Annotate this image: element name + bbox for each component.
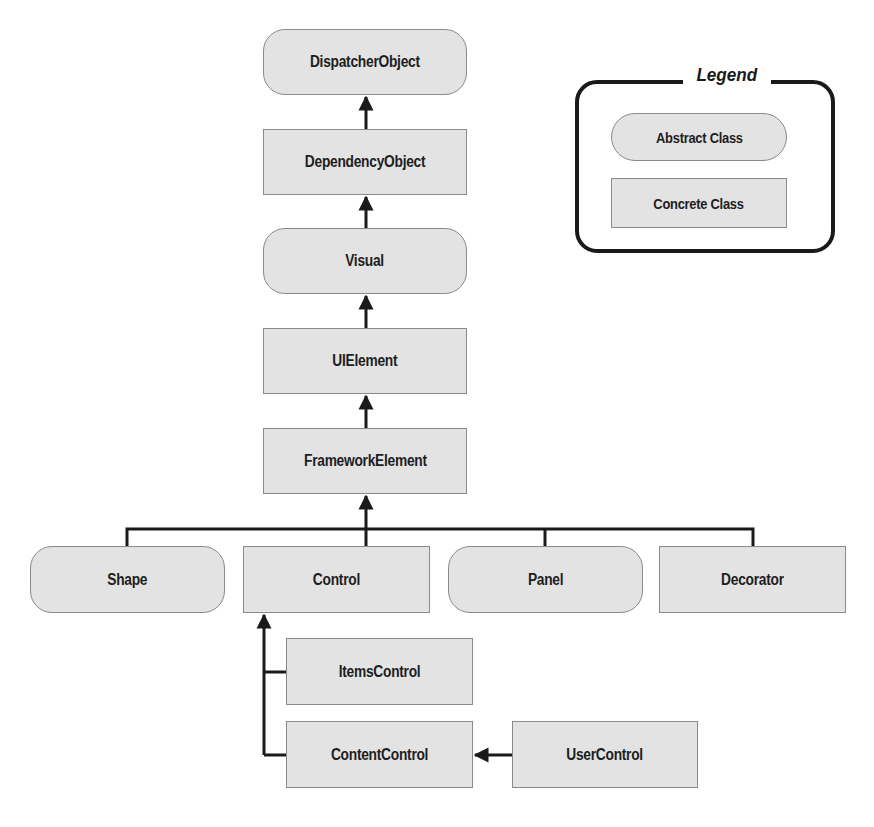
class-label: Control xyxy=(313,571,360,589)
class-uielement: UIElement xyxy=(263,328,467,394)
class-shape: Shape xyxy=(30,546,225,613)
legend-title: Legend xyxy=(683,64,771,86)
class-usercontrol: UserControl xyxy=(512,721,698,788)
class-label: DispatcherObject xyxy=(310,53,420,71)
class-dependencyobject: DependencyObject xyxy=(263,129,467,195)
legend-concrete-class: Concrete Class xyxy=(611,178,787,228)
legend-title-text: Legend xyxy=(696,64,757,86)
class-label: FrameworkElement xyxy=(304,452,427,470)
class-label: ContentControl xyxy=(331,746,428,764)
class-control: Control xyxy=(243,546,430,613)
class-label: Visual xyxy=(346,252,385,270)
class-decorator: Decorator xyxy=(659,546,846,613)
class-panel: Panel xyxy=(448,546,643,613)
class-itemscontrol: ItemsControl xyxy=(286,638,473,705)
class-visual: Visual xyxy=(263,228,467,294)
class-dispatcherobject: DispatcherObject xyxy=(263,29,467,95)
class-label: DependencyObject xyxy=(305,153,426,171)
class-label: Decorator xyxy=(721,571,784,589)
legend-abstract-label: Abstract Class xyxy=(656,129,743,146)
class-frameworkelement: FrameworkElement xyxy=(263,428,467,494)
class-label: Shape xyxy=(107,571,147,589)
legend-abstract-class: Abstract Class xyxy=(611,113,787,161)
class-contentcontrol: ContentControl xyxy=(286,721,473,788)
class-label: Panel xyxy=(528,571,563,589)
class-label: UIElement xyxy=(333,352,398,370)
legend-concrete-label: Concrete Class xyxy=(654,195,744,212)
class-label: UserControl xyxy=(567,746,644,764)
class-label: ItemsControl xyxy=(339,663,421,681)
